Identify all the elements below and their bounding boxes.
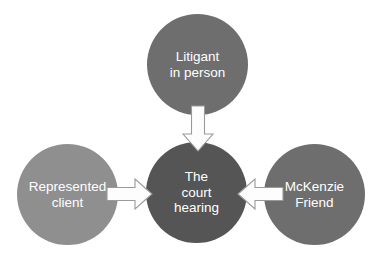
- node-represented-line-1: Represented: [17, 179, 118, 195]
- node-represented-label: Represented client: [17, 179, 118, 211]
- arrow-represented-to-court-icon: [107, 178, 153, 210]
- node-court-line-3: hearing: [146, 200, 247, 216]
- node-litigant-label: Litigant in person: [147, 49, 248, 81]
- arrow-mckenzie-to-court-icon: [237, 178, 283, 210]
- node-court-line-1: The: [146, 169, 247, 185]
- node-litigant-line-2: in person: [147, 65, 248, 81]
- node-represented-line-2: client: [17, 195, 118, 211]
- arrow-litigant-to-court-icon: [182, 106, 214, 152]
- node-litigant-in-person: Litigant in person: [147, 14, 248, 115]
- node-litigant-line-1: Litigant: [147, 49, 248, 65]
- node-court-line-2: court: [146, 185, 247, 201]
- node-the-court-hearing: The court hearing: [146, 142, 247, 243]
- node-court-label: The court hearing: [146, 169, 247, 217]
- node-represented-client: Represented client: [17, 144, 118, 245]
- diagram-canvas: Litigant in person Represented client Mc…: [0, 0, 382, 262]
